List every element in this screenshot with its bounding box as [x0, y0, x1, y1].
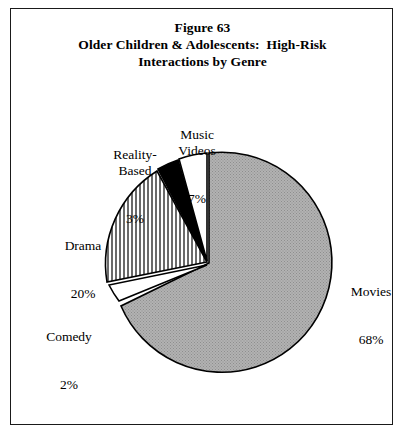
pie-label-comedy-name: Comedy — [31, 329, 107, 345]
pie-label-reality-based-name: Reality- Based — [97, 147, 173, 179]
pie-label-movies: Movies 68% — [333, 252, 403, 380]
pie-label-comedy-value: 2% — [31, 377, 107, 393]
figure-frame: Figure 63 Older Children & Adolescents: … — [10, 8, 393, 425]
pie-label-drama-name: Drama — [45, 238, 121, 254]
pie-label-movies-name: Movies — [333, 284, 403, 300]
pie-label-comedy: Comedy 2% — [31, 297, 107, 425]
pie-chart: Music Videos 7% Reality- Based 3% Drama … — [11, 9, 394, 426]
pie-label-movies-value: 68% — [333, 332, 403, 348]
